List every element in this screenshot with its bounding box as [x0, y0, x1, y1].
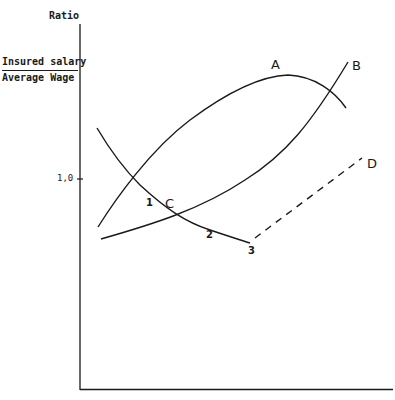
curve-d-label: D	[367, 156, 377, 171]
chart-plot-area	[0, 0, 395, 400]
curve-a-label: A	[271, 57, 280, 72]
point-3-label: 3	[248, 245, 255, 256]
curve-a	[98, 75, 346, 227]
curve-b	[101, 62, 348, 239]
curve-b-label: B	[352, 58, 361, 73]
point-1-label: 1	[146, 197, 153, 208]
curve-d	[255, 158, 362, 238]
curve-c-label: C	[165, 196, 174, 211]
curve-c	[97, 128, 250, 243]
point-2-label: 2	[206, 229, 213, 240]
